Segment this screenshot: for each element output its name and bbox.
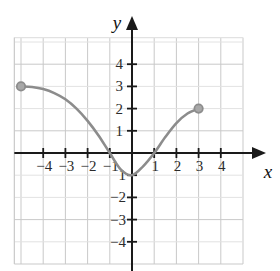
x-tick-label: 1 — [151, 158, 159, 174]
x-tick-label: −3 — [58, 158, 74, 174]
y-tick-label: −2 — [110, 189, 126, 205]
y-tick-label: 2 — [116, 101, 124, 117]
x-tick-label: 2 — [174, 158, 182, 174]
y-tick-label: −3 — [110, 212, 126, 228]
x-tick-label: −2 — [81, 158, 97, 174]
y-tick-label: 3 — [116, 78, 124, 94]
x-tick-label: 3 — [196, 158, 204, 174]
x-tick-label: −1 — [103, 158, 119, 174]
x-tick-label: 4 — [218, 158, 226, 174]
y-tick-label: 1 — [116, 123, 124, 139]
y-axis-label: y — [111, 12, 122, 33]
graph-figure: −4−3−2−1123443211−2−3−4xy — [0, 0, 280, 271]
x-axis-arrow — [252, 147, 266, 159]
y-tick-label: −4 — [110, 234, 126, 250]
coordinate-plane: −4−3−2−1123443211−2−3−4xy — [0, 0, 280, 271]
x-axis-label: x — [263, 161, 273, 182]
axes — [14, 16, 266, 271]
grid-lines — [14, 38, 243, 264]
x-tick-label: −4 — [36, 158, 52, 174]
y-tick-label: 4 — [116, 56, 124, 72]
left-endpoint — [17, 82, 25, 90]
right-endpoint — [194, 104, 202, 112]
y-axis-arrow — [126, 16, 138, 30]
